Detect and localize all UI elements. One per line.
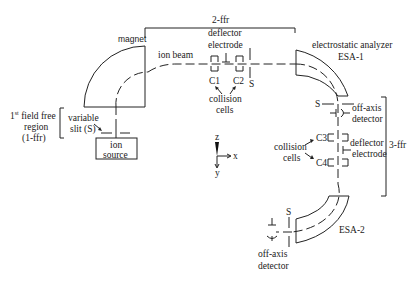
collision1-label-1: collision [209, 94, 242, 104]
slit-esa2-label: S [286, 207, 291, 217]
esa1-label-1: electrostatic analyzer [312, 40, 393, 50]
collision2-label-2: cells [283, 153, 301, 163]
ffr3-label: 3-ffr [389, 140, 407, 150]
ffr1-label-2: region [24, 122, 49, 132]
deflector1-label-1: deflector [208, 28, 243, 38]
collision-arrows-1 [215, 86, 236, 94]
esa-2 [296, 196, 349, 243]
axis-y-label: y [215, 168, 220, 178]
axis-z-label: z [215, 132, 219, 142]
ffr1-bracket [60, 108, 64, 138]
offaxis1-label-2: detector [352, 114, 383, 124]
magnet [84, 46, 145, 107]
ion-beam-label: ion beam [158, 50, 194, 60]
deflector-electrode-1 [222, 53, 230, 62]
axes-icon [215, 142, 231, 168]
esa2-label: ESA-2 [339, 225, 365, 235]
offaxis1-label-1: off-axis [352, 103, 382, 113]
esa1-label-2: ESA-1 [338, 52, 364, 62]
deflector2-label-2: electrode [352, 149, 387, 159]
collision2-label-1: collision [274, 142, 307, 152]
off-axis-detector-1 [330, 109, 350, 117]
diagram: magnet 2-ffr ion beam deflector electrod… [0, 0, 419, 282]
magnet-label: magnet [118, 34, 147, 44]
source-label-2: source [103, 150, 128, 160]
ffr1-label-3: (1-ffr) [22, 133, 46, 144]
c2-label: C2 [233, 76, 244, 86]
collision1-label-2: cells [216, 105, 234, 115]
c1-label: C1 [209, 76, 220, 86]
deflector2-label-1: deflector [350, 138, 385, 148]
axis-x-label: x [233, 151, 238, 161]
off-axis-detector-2 [267, 218, 277, 241]
offaxis2-label-1: off-axis [258, 249, 288, 259]
ffr1-label-1: 1st field free [10, 110, 56, 121]
ffr2-label: 2-ffr [212, 15, 230, 25]
varslit-label-1: variable [68, 113, 99, 123]
source-label-1: ion [110, 140, 122, 150]
c4-label: C4 [316, 158, 327, 168]
offaxis2-label-2: detector [258, 261, 289, 271]
slit-2ffr-label: S [249, 79, 254, 89]
varslit-label-2: slit (S) [70, 124, 96, 135]
slit-esa1-label: S [315, 99, 320, 109]
deflector1-label-2: electrode [208, 40, 243, 50]
c3-label: C3 [316, 133, 327, 143]
